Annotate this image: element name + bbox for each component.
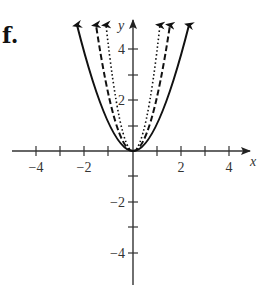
dotted-parabola-right — [133, 25, 160, 151]
y-tick-label: −2 — [110, 195, 125, 210]
coordinate-plane: −4 −2 2 4 x 4 2 −2 −4 y — [0, 0, 272, 290]
y-axis-label: y — [116, 18, 125, 33]
x-tick-label: 4 — [226, 160, 233, 175]
y-tick-label: 2 — [118, 93, 125, 108]
x-tick-label: 2 — [178, 160, 185, 175]
y-tick-label: 4 — [118, 42, 125, 57]
x-axis-label: x — [249, 154, 257, 169]
x-tick-label: −2 — [77, 160, 92, 175]
y-tick-label: −4 — [110, 246, 125, 261]
x-tick-label: −4 — [29, 160, 44, 175]
solid-parabola-right — [133, 25, 189, 151]
dashed-parabola-right — [133, 25, 170, 151]
dashed-parabola-left — [96, 25, 133, 151]
